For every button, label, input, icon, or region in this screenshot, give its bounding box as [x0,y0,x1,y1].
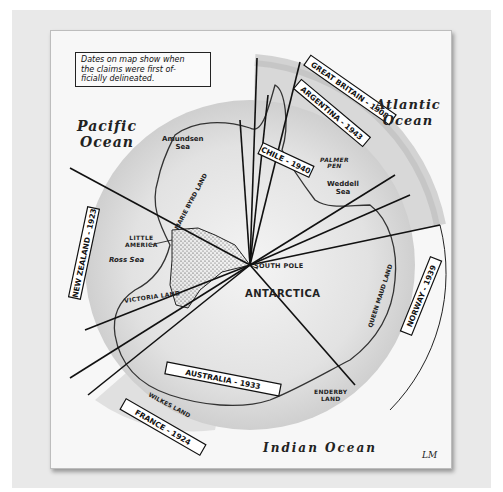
label-south-pole: SOUTH POLE [254,262,304,270]
note-line-3: ficially delineated. [81,74,205,84]
label-little-america: LITTLE AMERICA [125,234,158,248]
label-enderby-land: ENDERBY LAND [314,388,348,402]
label-amundsen-sea: Amundsen Sea [162,135,204,151]
note-line-2: the claims were first of- [81,65,205,75]
label-antarctica: ANTARCTICA [245,288,321,299]
artist-signature: LM [421,450,438,460]
label-indian-ocean: Indian Ocean [245,440,395,456]
label-pacific-ocean: Pacific Ocean [72,118,142,150]
label-ross-sea: Ross Sea [109,256,144,264]
label-atlantic-ocean: Atlantic Ocean [368,97,448,129]
label-weddell-sea: Weddell Sea [327,180,359,196]
note-line-1: Dates on map show when [81,55,205,65]
label-palmer-peninsula: PALMER PEN [320,157,349,169]
map-note: Dates on map show when the claims were f… [75,52,211,87]
